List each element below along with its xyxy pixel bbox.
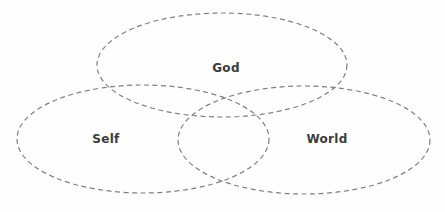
ellipse-self[interactable] [17,85,269,193]
label-world: World [306,132,347,146]
venn-diagram: God Self World [0,0,445,212]
venn-diagram-canvas: God Self World [0,0,445,212]
label-god: God [212,61,240,75]
label-self: Self [92,132,120,146]
ellipse-world[interactable] [178,86,430,194]
